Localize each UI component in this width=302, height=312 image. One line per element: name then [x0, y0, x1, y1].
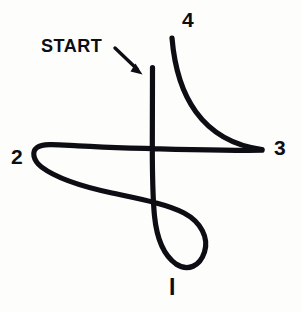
final-curve-path — [172, 38, 262, 150]
stroke-sequence-figure: START 4 3 2 I — [0, 0, 302, 312]
sequence-label-4: 4 — [182, 9, 194, 30]
main-stroke-path — [34, 68, 262, 268]
sequence-label-2: 2 — [11, 146, 23, 167]
start-arrow-icon — [115, 48, 143, 75]
start-label: START — [41, 36, 102, 55]
sequence-label-3: 3 — [274, 137, 286, 158]
sequence-label-1: I — [169, 276, 175, 299]
